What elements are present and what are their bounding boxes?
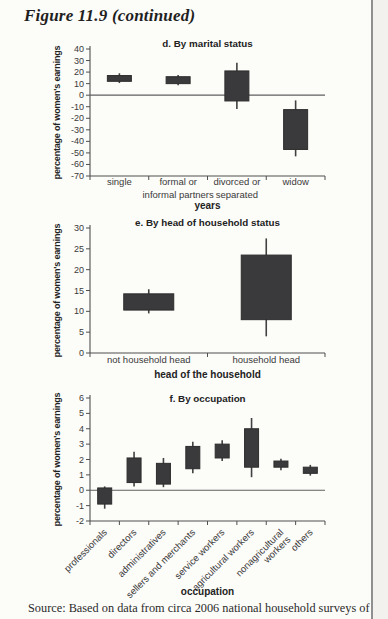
y-tick-label: -1 xyxy=(76,501,84,511)
y-axis-label: percentage of women's earnings xyxy=(52,223,62,357)
box-3 xyxy=(284,110,308,150)
y-tick-label: 0 xyxy=(79,348,84,358)
chart-title: d. By marital status xyxy=(162,38,253,49)
y-tick-label: -20 xyxy=(71,113,84,123)
x-category-label: single xyxy=(107,176,132,187)
y-tick-label: 2 xyxy=(79,455,84,465)
y-tick-label: 1 xyxy=(79,470,84,480)
box-6 xyxy=(274,461,288,467)
y-tick-label: -30 xyxy=(71,125,84,135)
x-category-label: separated xyxy=(216,189,258,200)
x-category-label: others xyxy=(288,526,315,553)
x-category-label: informal partners xyxy=(142,189,214,200)
chart-title: e. By head of household status xyxy=(135,217,280,228)
box-2 xyxy=(156,463,170,484)
page-margin-area xyxy=(373,0,388,619)
box-3 xyxy=(186,446,200,468)
x-category-label: divorced or xyxy=(213,176,260,187)
y-tick-label: -40 xyxy=(71,136,84,146)
x-category-label: widow xyxy=(281,176,309,187)
y-tick-label: 40 xyxy=(74,44,84,54)
y-tick-label: 0 xyxy=(79,485,84,495)
y-tick-label: 4 xyxy=(79,424,84,434)
source-caption: Source: Based on data from circa 2006 na… xyxy=(28,601,368,616)
box-2 xyxy=(225,71,249,101)
y-axis-label: percentage of women's earnings xyxy=(52,45,62,179)
y-tick-label: 5 xyxy=(79,327,84,337)
box-1 xyxy=(127,458,141,483)
chart-title: f. By occupation xyxy=(169,393,245,404)
box-1 xyxy=(241,255,291,320)
x-axis-label: occupation xyxy=(181,586,234,597)
y-axis-label: percentage of women's earnings xyxy=(52,392,62,526)
y-tick-label: 10 xyxy=(74,79,84,89)
y-tick-label: 20 xyxy=(74,265,84,275)
y-tick-label: -50 xyxy=(71,148,84,158)
y-tick-label: 5 xyxy=(79,408,84,418)
box-4 xyxy=(215,444,229,458)
box-5 xyxy=(245,429,259,467)
y-tick-label: -60 xyxy=(71,159,84,169)
y-tick-label: 3 xyxy=(79,439,84,449)
x-category-label: not household head xyxy=(107,354,190,365)
box-0 xyxy=(107,76,131,82)
y-tick-label: 30 xyxy=(74,223,84,233)
y-tick-label: 20 xyxy=(74,67,84,77)
page-edge-line xyxy=(371,0,373,619)
x-axis-label: head of the household xyxy=(154,369,261,380)
boxplot-by-occupation: f. By occupation6543210-1-2professionals… xyxy=(0,390,388,600)
x-axis-label: years xyxy=(194,200,221,211)
y-tick-label: 25 xyxy=(74,244,84,254)
y-tick-label: 30 xyxy=(74,56,84,66)
box-0 xyxy=(98,488,112,504)
y-tick-label: 15 xyxy=(74,286,84,296)
x-category-label: formal or xyxy=(159,176,196,187)
y-tick-label: 6 xyxy=(79,393,84,403)
scanned-book-page: Figure 11.9 (continued) d. By marital st… xyxy=(0,0,388,619)
y-tick-label: -2 xyxy=(76,516,84,526)
box-1 xyxy=(166,77,190,84)
boxplot-by-marital-status: d. By marital status403020100-10-20-30-4… xyxy=(0,36,388,215)
box-7 xyxy=(303,467,317,473)
box-0 xyxy=(124,294,174,310)
y-tick-label: 0 xyxy=(79,90,84,100)
boxplot-by-household-head-status: e. By head of household status3025201510… xyxy=(0,215,388,390)
y-tick-label: -10 xyxy=(71,102,84,112)
x-category-label: professionals xyxy=(62,526,110,574)
figure-title: Figure 11.9 (continued) xyxy=(24,6,195,26)
x-category-label: household head xyxy=(232,354,300,365)
y-tick-label: -70 xyxy=(71,171,84,181)
y-tick-label: 10 xyxy=(74,306,84,316)
